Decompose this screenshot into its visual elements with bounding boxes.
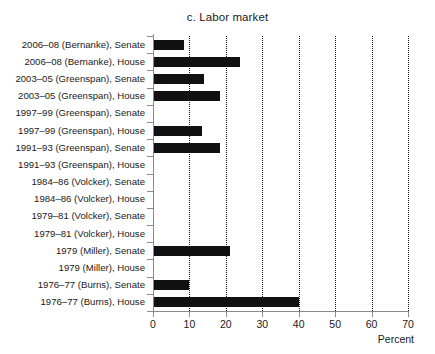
x-tick <box>335 312 336 317</box>
y-axis-label: 1979 (Miller), House <box>0 262 145 273</box>
x-axis-title: Percent <box>0 333 414 345</box>
bar <box>153 143 220 153</box>
y-axis-label: 2003–05 (Greenspan), House <box>0 90 145 101</box>
y-axis-label: 2006–08 (Bernanke), Senate <box>0 39 145 50</box>
y-axis-label: 1976–77 (Burns), Senate <box>0 279 145 290</box>
y-axis-label: 1979 (Miller), Senate <box>0 245 145 256</box>
y-tick <box>147 70 153 71</box>
y-axis-label: 1984–86 (Volcker), House <box>0 193 145 204</box>
x-tick <box>226 312 227 317</box>
y-axis-label: 1979–81 (Volcker), Senate <box>0 210 145 221</box>
y-tick <box>147 294 153 295</box>
y-axis-line <box>153 34 154 313</box>
x-axis-label: 40 <box>293 318 305 330</box>
x-axis-label: 10 <box>184 318 196 330</box>
y-axis-ticks <box>147 36 153 311</box>
y-tick <box>147 36 153 37</box>
y-axis-label: 2006–08 (Bernanke), House <box>0 56 145 67</box>
y-tick <box>147 208 153 209</box>
y-tick <box>147 191 153 192</box>
x-tick <box>372 312 373 317</box>
bar <box>153 246 230 256</box>
y-tick <box>147 174 153 175</box>
bar <box>153 126 202 136</box>
y-axis-label: 1997–99 (Greenspan), Senate <box>0 107 145 118</box>
bar <box>153 57 240 67</box>
x-axis-label: 20 <box>220 318 232 330</box>
y-tick <box>147 259 153 260</box>
y-tick <box>147 88 153 89</box>
x-axis-label: 30 <box>256 318 268 330</box>
x-axis-tick-labels: 010203040506070 <box>0 318 435 334</box>
y-axis-label: 1997–99 (Greenspan), House <box>0 125 145 136</box>
bar <box>153 74 204 84</box>
y-axis-label: 1979–81 (Volcker), House <box>0 228 145 239</box>
x-tick <box>153 312 154 317</box>
y-tick <box>147 139 153 140</box>
x-axis-label: 50 <box>329 318 341 330</box>
y-axis-label: 1976–77 (Burns), House <box>0 296 145 307</box>
y-tick <box>147 242 153 243</box>
bar <box>153 297 299 307</box>
y-tick <box>147 122 153 123</box>
x-tick <box>408 312 409 317</box>
bar <box>153 280 189 290</box>
x-axis-label: 0 <box>150 318 156 330</box>
y-axis-label: 1991–93 (Greenspan), House <box>0 159 145 170</box>
y-tick <box>147 277 153 278</box>
bar <box>153 40 184 50</box>
bars-group <box>153 36 408 311</box>
x-axis-label: 70 <box>402 318 414 330</box>
x-axis-label: 60 <box>366 318 378 330</box>
y-axis-label: 1984–86 (Volcker), Senate <box>0 176 145 187</box>
y-tick <box>147 53 153 54</box>
y-tick <box>147 105 153 106</box>
chart-title: c. Labor market <box>0 11 435 23</box>
y-tick <box>147 156 153 157</box>
y-axis-label: 2003–05 (Greenspan), Senate <box>0 73 145 84</box>
x-tick <box>189 312 190 317</box>
x-tick <box>262 312 263 317</box>
y-axis-tick-labels: 2006–08 (Bernanke), Senate2006–08 (Berna… <box>0 36 145 311</box>
x-tick <box>299 312 300 317</box>
bar <box>153 91 220 101</box>
y-tick <box>147 225 153 226</box>
y-axis-label: 1991–93 (Greenspan), Senate <box>0 142 145 153</box>
labor-market-bar-chart-figure: c. Labor market 2006–08 (Bernanke), Sena… <box>0 0 435 354</box>
plot-area <box>153 36 408 311</box>
gridline-70 <box>408 36 409 311</box>
